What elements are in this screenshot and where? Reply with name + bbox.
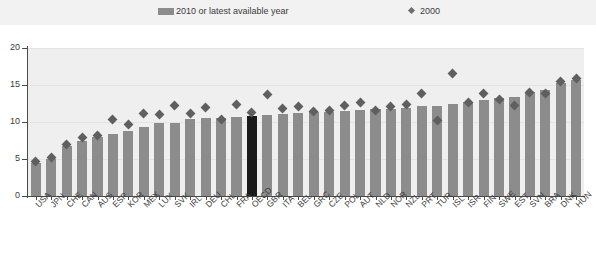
bar-column[interactable] — [401, 48, 411, 196]
bar-column[interactable] — [247, 48, 257, 196]
bar-column[interactable] — [262, 48, 272, 196]
bar-column[interactable] — [231, 48, 241, 196]
y-axis-tick-label: 10 — [2, 117, 20, 126]
bar-column[interactable] — [386, 48, 396, 196]
diamond-icon — [408, 7, 417, 16]
chart-legend: 2010 or latest available year 2000 — [0, 0, 596, 25]
bar-column[interactable] — [201, 48, 211, 196]
plot-area — [28, 48, 584, 196]
bar[interactable] — [262, 115, 272, 196]
legend-label-2010: 2010 or latest available year — [176, 6, 289, 16]
bar-column[interactable] — [463, 48, 473, 196]
bar[interactable] — [479, 100, 489, 196]
bar-column[interactable] — [370, 48, 380, 196]
bar[interactable] — [556, 83, 566, 196]
bar-column[interactable] — [170, 48, 180, 196]
y-axis-tick — [22, 122, 28, 123]
bar[interactable] — [185, 119, 195, 196]
bar-column[interactable] — [278, 48, 288, 196]
legend-label-2000: 2000 — [420, 6, 440, 16]
bar[interactable] — [108, 134, 118, 196]
bar-column[interactable] — [62, 48, 72, 196]
bar-column[interactable] — [571, 48, 581, 196]
bar-column[interactable] — [340, 48, 350, 196]
y-axis-tick-label: 20 — [2, 43, 20, 52]
bar-column[interactable] — [509, 48, 519, 196]
bar-column[interactable] — [540, 48, 550, 196]
bar[interactable] — [525, 92, 535, 196]
bar[interactable] — [340, 111, 350, 196]
x-axis-labels: USAJPNCHECANAUSESPKORMEXLUXSVKIRLDEUCHLF… — [28, 197, 584, 253]
bar-column[interactable] — [31, 48, 41, 196]
y-axis-tick — [22, 196, 28, 197]
bar[interactable] — [309, 112, 319, 196]
bar[interactable] — [293, 113, 303, 196]
bar[interactable] — [123, 131, 133, 196]
bar-column[interactable] — [525, 48, 535, 196]
bar-column[interactable] — [309, 48, 319, 196]
bar[interactable] — [154, 123, 164, 196]
bar[interactable] — [231, 117, 241, 196]
bar-column[interactable] — [417, 48, 427, 196]
legend-item-2010: 2010 or latest available year — [158, 4, 289, 18]
bar[interactable] — [139, 127, 149, 196]
bar[interactable] — [278, 114, 288, 196]
y-axis-tick — [22, 85, 28, 86]
bar[interactable] — [509, 97, 519, 196]
bar-column[interactable] — [92, 48, 102, 196]
bar[interactable] — [401, 108, 411, 196]
legend-item-2000: 2000 — [408, 4, 440, 18]
bar[interactable] — [463, 102, 473, 196]
bar-column[interactable] — [46, 48, 56, 196]
bar-column[interactable] — [355, 48, 365, 196]
y-axis-labels: 20151050 — [0, 0, 20, 253]
bar-column[interactable] — [479, 48, 489, 196]
bar-swatch-icon — [158, 8, 174, 15]
bar-column[interactable] — [293, 48, 303, 196]
bar[interactable] — [247, 116, 257, 196]
y-axis-tick — [22, 159, 28, 160]
bar[interactable] — [370, 109, 380, 196]
bar[interactable] — [216, 118, 226, 196]
bar[interactable] — [31, 163, 41, 196]
y-axis-tick — [22, 48, 28, 49]
bar[interactable] — [386, 109, 396, 196]
bar[interactable] — [494, 98, 504, 196]
bar[interactable] — [417, 106, 427, 196]
bar[interactable] — [448, 104, 458, 197]
bar[interactable] — [46, 159, 56, 196]
bar[interactable] — [92, 137, 102, 196]
bar-column[interactable] — [154, 48, 164, 196]
bar[interactable] — [62, 146, 72, 196]
bar[interactable] — [201, 118, 211, 196]
bar[interactable] — [170, 123, 180, 196]
bar[interactable] — [571, 80, 581, 196]
bar-column[interactable] — [556, 48, 566, 196]
y-axis-tick-label: 0 — [2, 191, 20, 200]
bar[interactable] — [77, 141, 87, 197]
bar[interactable] — [540, 90, 550, 196]
chart-figure: 2010 or latest available year 2000 20151… — [0, 0, 596, 253]
y-axis-tick-label: 5 — [2, 154, 20, 163]
bar-column[interactable] — [185, 48, 195, 196]
bar-column[interactable] — [77, 48, 87, 196]
bar-column[interactable] — [139, 48, 149, 196]
y-axis-tick-label: 15 — [2, 80, 20, 89]
bar[interactable] — [324, 112, 334, 196]
bar[interactable] — [355, 110, 365, 196]
bar-column[interactable] — [324, 48, 334, 196]
bar-column[interactable] — [494, 48, 504, 196]
